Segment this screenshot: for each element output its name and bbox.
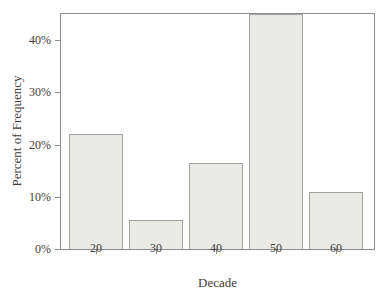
y-axis-tick [55,145,60,146]
bar-chart-figure: Percent of Frequency 0%10%20%30%40% Deca… [0,0,387,304]
bar-20 [69,134,123,249]
y-axis-tick [55,197,60,198]
y-axis-tick-label: 20% [13,138,51,152]
y-axis-tick-label: 10% [13,190,51,204]
y-axis-tick-label: 40% [13,33,51,47]
x-axis-title: Decade [60,275,375,291]
y-axis-tick [55,249,60,250]
x-axis-tick-label: 40 [196,241,236,255]
bar-50 [249,14,303,249]
x-axis-tick-label: 20 [76,241,116,255]
x-axis-tick-label: 30 [136,241,176,255]
y-axis-tick-label: 30% [13,85,51,99]
y-axis-tick-label: 0% [13,242,51,256]
plot-area: 0%10%20%30%40% [60,13,375,250]
x-axis-tick-label: 60 [316,241,356,255]
y-axis-tick [55,92,60,93]
y-axis-tick [55,40,60,41]
bar-40 [189,163,243,249]
x-axis-tick-label: 50 [256,241,296,255]
